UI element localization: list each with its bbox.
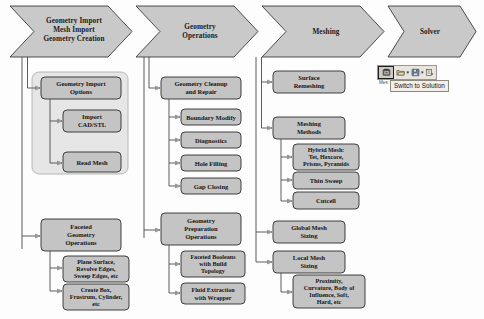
box-boundary-modify[interactable]: Boundary Modify xyxy=(181,109,241,125)
box-import-cad-stl[interactable]: Import CAD/STL xyxy=(63,110,121,132)
box-label-line: Gap Closing xyxy=(194,183,229,190)
switch-to-solution-button[interactable] xyxy=(378,66,394,79)
box-label-line: Sizing xyxy=(301,232,319,239)
box-label-line: Cutcell xyxy=(316,197,336,204)
box-label-line: and Repair xyxy=(185,88,216,95)
box-global-mesh-sizing[interactable]: Global Mesh Sizing xyxy=(273,221,345,243)
box-label-line: Local Mesh xyxy=(293,254,326,261)
stage-label-line: Solver xyxy=(420,28,441,36)
box-label-line: Fluid Extraction xyxy=(191,287,235,293)
box-label-line: Geometry xyxy=(187,217,216,224)
open-folder-icon[interactable] xyxy=(396,68,405,77)
stage-solver[interactable]: Solver xyxy=(388,6,476,57)
box-label-line: Influence, Soft, xyxy=(309,292,349,298)
box-label-line: Read Mesh xyxy=(76,159,108,166)
toolbar-under-label: Mes xyxy=(379,80,388,85)
box-label-line: Methods xyxy=(297,128,322,135)
stage-geometry-operations[interactable]: Geometry Operations xyxy=(136,6,258,57)
box-label-line: Proximity, xyxy=(315,278,343,284)
box-label-line: Plane Surface, xyxy=(77,259,115,265)
chevron-down-icon[interactable]: ▾ xyxy=(421,70,425,75)
box-gap-closing[interactable]: Gap Closing xyxy=(181,178,241,194)
export-icon[interactable] xyxy=(425,68,434,77)
box-meshing-methods[interactable]: Meshing Methods xyxy=(273,117,345,139)
box-surface-remeshing[interactable]: Surface Remeshing xyxy=(273,71,345,93)
box-label-line: Meshing xyxy=(297,120,322,127)
box-label-line: CAD/STL xyxy=(78,121,107,128)
box-plane-surface[interactable]: Plane Surface, Revolve Edges, Sweep Edge… xyxy=(63,256,129,282)
box-create-box[interactable]: Create Box, Frustrum, Cylinder, etc xyxy=(63,284,129,310)
box-label-line: Operations xyxy=(185,233,217,240)
box-label-line: Geometry Import xyxy=(56,80,106,87)
box-label-line: Surface xyxy=(298,74,319,81)
box-label-line: Revolve Edges, xyxy=(76,266,116,272)
box-label-line: Diagnostics xyxy=(195,137,227,144)
box-label-line: Thin Sweep xyxy=(310,177,343,184)
box-geometry-cleanup-and-repair[interactable]: Geometry Cleanup and Repair xyxy=(161,77,241,99)
box-label-line: Create Box, xyxy=(81,287,112,293)
box-hole-filling[interactable]: Hole Filling xyxy=(181,155,241,171)
box-label-line: Remeshing xyxy=(294,82,325,89)
box-label-line: Tet, Hexcore, xyxy=(309,154,344,160)
box-read-mesh[interactable]: Read Mesh xyxy=(63,152,121,172)
toolbar-tooltip: Switch to Solution xyxy=(390,80,449,92)
stage-label-line: Geometry xyxy=(184,23,216,31)
save-disk-icon[interactable] xyxy=(411,68,420,77)
column-meshing: Surface Remeshing Meshing Methods Hybrid… xyxy=(256,57,365,308)
stage-label-line: Operations xyxy=(182,32,217,40)
stage-meshing[interactable]: Meshing xyxy=(262,6,384,57)
stage-label-line: Mesh Import xyxy=(53,26,95,34)
box-diagnostics[interactable]: Diagnostics xyxy=(181,132,241,148)
box-faceted-booleans[interactable]: Faceted Booleans with Build Topology xyxy=(181,251,245,277)
box-label-line: Topology xyxy=(201,268,225,274)
stage-label-line: Meshing xyxy=(312,28,339,36)
box-local-mesh-sizing[interactable]: Local Mesh Sizing xyxy=(273,251,345,273)
box-label-line: Geometry xyxy=(67,231,96,238)
stage-label-line: Geometry Import xyxy=(46,17,102,25)
application-toolbar[interactable]: ▾ ▾ xyxy=(377,65,437,80)
column-geometry-import: Geometry Import Options Import CAD/STL R… xyxy=(22,57,129,310)
box-label-line: Hole Filling xyxy=(195,160,228,167)
switch-to-solution-icon xyxy=(382,68,391,77)
column-geometry-operations: Geometry Cleanup and Repair Boundary Mod… xyxy=(144,57,245,304)
box-hybrid-mesh[interactable]: Hybrid Mesh: Tet, Hexcore, Prisms, Pyram… xyxy=(293,144,359,170)
box-label-line: etc xyxy=(92,301,100,307)
box-cutcell[interactable]: Cutcell xyxy=(293,192,359,209)
diagram-page: Geometry Import Mesh Import Geometry Cre… xyxy=(0,0,484,319)
box-label-line: Import xyxy=(82,113,103,120)
box-label-line: Faceted xyxy=(70,223,92,230)
box-label-line: Curvature, Body of xyxy=(304,285,355,291)
box-label-line: Prisms, Pyramids xyxy=(303,161,350,167)
box-label-line: with Build xyxy=(199,261,227,267)
chevron-down-icon[interactable]: ▾ xyxy=(406,70,410,75)
box-geometry-import-options[interactable]: Geometry Import Options xyxy=(41,77,121,99)
box-faceted-geometry-operations[interactable]: Faceted Geometry Operations xyxy=(41,219,121,251)
box-geometry-preparation-operations[interactable]: Geometry Preparation Operations xyxy=(161,213,241,245)
box-label-line: Geometry Cleanup xyxy=(175,80,228,87)
box-fluid-extraction[interactable]: Fluid Extraction with Wrapper xyxy=(181,283,245,304)
stage-label-line: Geometry Creation xyxy=(43,35,104,43)
box-label-line: Hybrid Mesh: xyxy=(308,147,345,153)
box-label-line: Faceted Booleans xyxy=(190,254,236,260)
box-label-line: Frustrum, Cylinder, xyxy=(70,294,123,300)
flowchart-canvas: Geometry Import Mesh Import Geometry Cre… xyxy=(0,0,484,319)
box-thin-sweep[interactable]: Thin Sweep xyxy=(293,172,359,189)
box-label-line: Boundary Modify xyxy=(186,114,236,121)
box-label-line: Sweep Edges, etc xyxy=(74,273,118,279)
box-label-line: with Wrapper xyxy=(195,295,232,301)
box-proximity-curvature[interactable]: Proximity, Curvature, Body of Influence,… xyxy=(293,275,365,308)
box-label-line: Hard, etc xyxy=(317,299,342,305)
stage-geometry-import[interactable]: Geometry Import Mesh Import Geometry Cre… xyxy=(10,6,132,57)
box-label-line: Sizing xyxy=(301,262,319,269)
toolbar-button-group[interactable]: ▾ ▾ xyxy=(394,66,436,79)
box-label-line: Preparation xyxy=(184,225,218,232)
box-label-line: Operations xyxy=(65,239,97,246)
box-label-line: Global Mesh xyxy=(291,224,327,231)
banner-row: Geometry Import Mesh Import Geometry Cre… xyxy=(10,6,476,57)
box-label-line: Options xyxy=(70,88,93,95)
